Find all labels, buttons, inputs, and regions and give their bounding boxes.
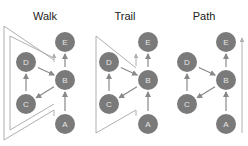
path-graph: EDBCA: [177, 32, 236, 134]
graph-traversal-diagram: Walk Trail Path EDBCAEDBCAEDBCA: [0, 0, 248, 146]
node-B: B: [55, 70, 75, 90]
node-label: C: [106, 100, 112, 109]
node-label: E: [62, 38, 67, 47]
trail-title: Trail: [115, 10, 136, 22]
node-B: B: [216, 70, 236, 90]
node-C: C: [16, 94, 36, 114]
node-A: A: [216, 114, 236, 134]
node-E: E: [216, 32, 236, 52]
node-C: C: [99, 94, 119, 114]
edge-D-B: [199, 67, 215, 75]
path-title: Path: [193, 10, 216, 22]
node-label: E: [145, 38, 150, 47]
node-E: E: [138, 32, 158, 52]
node-label: B: [223, 76, 228, 85]
walk-graph: EDBCA: [16, 32, 75, 134]
trail-traversal-outline: [96, 36, 136, 133]
edge-D-B: [38, 67, 54, 75]
trail-graph: EDBCA: [99, 32, 158, 134]
edge-B-C: [197, 87, 215, 98]
node-label: C: [23, 100, 29, 109]
node-E: E: [55, 32, 75, 52]
node-label: D: [23, 58, 29, 67]
node-C: C: [177, 94, 197, 114]
walk-title: Walk: [33, 10, 58, 22]
node-label: C: [184, 100, 190, 109]
edge-D-B: [121, 67, 137, 75]
node-A: A: [55, 114, 75, 134]
node-D: D: [99, 52, 119, 72]
walk-traversal-outline: [4, 26, 54, 140]
node-label: B: [145, 76, 150, 85]
node-label: B: [62, 76, 67, 85]
node-label: A: [145, 120, 151, 129]
node-label: A: [62, 120, 68, 129]
edge-B-C: [119, 87, 137, 98]
node-label: A: [223, 120, 229, 129]
node-D: D: [16, 52, 36, 72]
node-label: D: [184, 58, 190, 67]
node-label: D: [106, 58, 112, 67]
node-label: E: [223, 38, 228, 47]
edge-B-C: [36, 87, 54, 98]
node-D: D: [177, 52, 197, 72]
node-B: B: [138, 70, 158, 90]
node-A: A: [138, 114, 158, 134]
